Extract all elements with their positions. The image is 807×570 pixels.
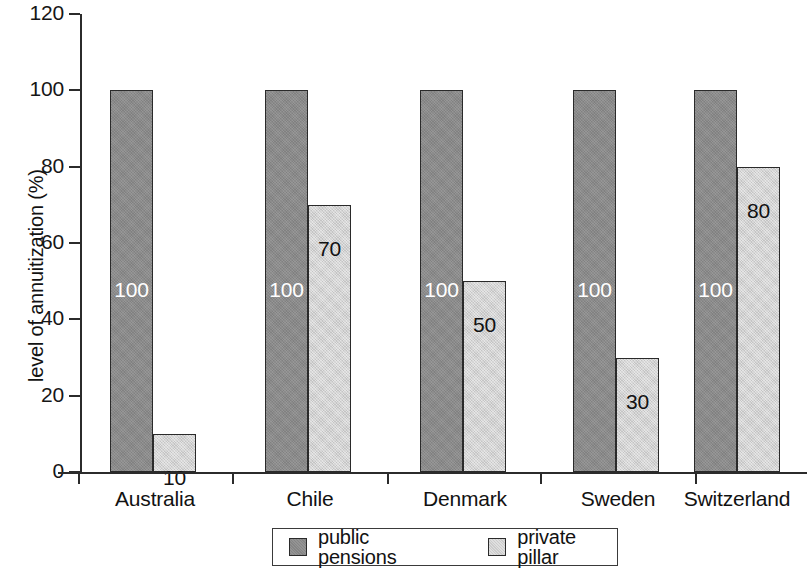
bar-australia-private-pillar: 10 [153, 434, 196, 472]
legend-item-public-pensions: public pensions [289, 527, 446, 567]
bar-value-label: 10 [154, 467, 195, 488]
x-tick-mark [695, 472, 697, 484]
y-tick-label: 0 [6, 460, 64, 481]
x-tick-mark [540, 472, 542, 484]
chart-legend: public pensions private pillar [272, 528, 618, 566]
bar-sweden-private-pillar: 30 [616, 358, 659, 473]
y-tick-mark [69, 89, 80, 91]
bar-value-label: 30 [617, 391, 658, 412]
bar-sweden-public-pensions: 100 [573, 90, 616, 472]
y-tick-mark [69, 13, 80, 15]
legend-label: private pillar [517, 527, 617, 567]
y-tick-mark [69, 242, 80, 244]
y-tick: 20 [0, 395, 80, 397]
bar-value-label: 70 [309, 238, 350, 259]
y-tick-label: 80 [6, 155, 64, 176]
bar-value-label: 100 [574, 279, 615, 300]
bar-denmark-private-pillar: 50 [463, 281, 506, 472]
bar-denmark-public-pensions: 100 [420, 90, 463, 472]
y-tick-mark [69, 395, 80, 397]
bar-chile-public-pensions: 100 [265, 90, 308, 472]
bar-chart: level of annuitization (%) 0204060801001… [0, 0, 807, 570]
x-tick-mark [78, 472, 80, 484]
x-axis-label-switzerland: Switzerland [647, 487, 807, 511]
y-tick: 60 [0, 242, 80, 244]
y-tick-mark [69, 318, 80, 320]
y-tick: 120 [0, 13, 80, 15]
bar-chile-private-pillar: 70 [308, 205, 351, 472]
y-axis-title: level of annuitization (%) [26, 169, 46, 382]
x-tick-mark [232, 472, 234, 484]
x-tick-mark [387, 472, 389, 484]
y-tick: 80 [0, 166, 80, 168]
legend-item-private-pillar: private pillar [488, 527, 617, 567]
y-axis-line [80, 14, 82, 473]
bar-value-label: 100 [266, 279, 307, 300]
bar-value-label: 100 [421, 279, 462, 300]
y-tick-label: 120 [6, 2, 64, 23]
light-gray-swatch-icon [488, 538, 506, 556]
bar-value-label: 100 [111, 279, 152, 300]
bar-value-label: 100 [695, 279, 736, 300]
y-tick-label: 20 [6, 384, 64, 405]
y-tick: 100 [0, 89, 80, 91]
bar-australia-public-pensions: 100 [110, 90, 153, 472]
x-axis-label-chile: Chile [220, 487, 400, 511]
y-tick-label: 60 [6, 231, 64, 252]
x-axis-label-australia: Australia [65, 487, 245, 511]
y-tick-label: 40 [6, 307, 64, 328]
bar-switzerland-private-pillar: 80 [737, 167, 780, 472]
y-tick-label: 100 [6, 78, 64, 99]
bar-value-label: 80 [738, 200, 779, 221]
y-tick: 40 [0, 318, 80, 320]
bar-value-label: 50 [464, 314, 505, 335]
bar-switzerland-public-pensions: 100 [694, 90, 737, 472]
legend-label: public pensions [318, 527, 446, 567]
y-tick-mark [69, 166, 80, 168]
dark-gray-swatch-icon [289, 538, 307, 556]
